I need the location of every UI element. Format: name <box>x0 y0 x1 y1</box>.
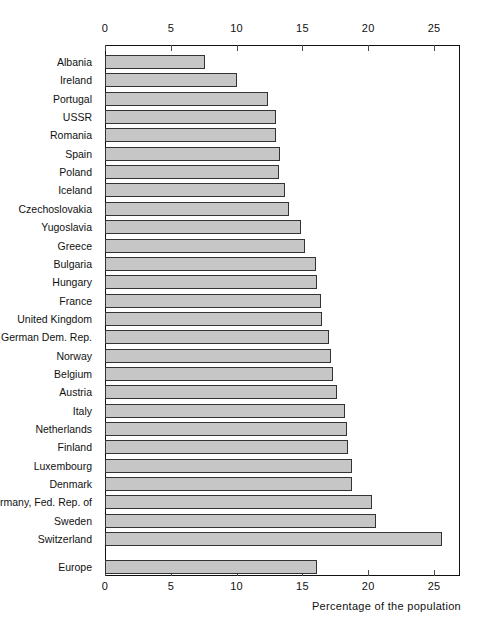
bar <box>105 55 205 69</box>
bar <box>105 404 345 418</box>
category-label: Italy <box>73 406 92 417</box>
x-tick-label-top: 20 <box>348 22 388 34</box>
bar <box>105 220 301 234</box>
category-label: Denmark <box>49 479 92 490</box>
bar <box>105 385 337 399</box>
category-label: German Dem. Rep. <box>1 332 92 343</box>
category-label: Finland <box>58 442 92 453</box>
bar <box>105 440 348 454</box>
category-label: Greece <box>58 241 92 252</box>
bar <box>105 92 268 106</box>
x-tick-top <box>105 45 106 51</box>
bar <box>105 514 376 528</box>
x-tick-top <box>237 45 238 51</box>
x-tick-label-top: 25 <box>414 22 454 34</box>
category-label: Norway <box>56 351 92 362</box>
bar <box>105 239 305 253</box>
x-tick-label-top: 15 <box>282 22 322 34</box>
bar <box>105 330 329 344</box>
category-label: Spain <box>65 149 92 160</box>
bar <box>105 183 285 197</box>
category-label: Romania <box>50 130 92 141</box>
x-tick-label-top: 5 <box>151 22 191 34</box>
x-tick-top <box>434 45 435 51</box>
bar <box>105 202 289 216</box>
category-label: Germany, Fed. Rep. of <box>0 497 92 508</box>
bar <box>105 477 352 491</box>
category-label: USSR <box>63 112 92 123</box>
x-tick-label-bottom: 25 <box>414 580 454 592</box>
bar <box>105 312 322 326</box>
category-labels: AlbaniaIrelandPortugalUSSRRomaniaSpainPo… <box>0 0 100 641</box>
category-label: France <box>59 296 92 307</box>
bar <box>105 349 331 363</box>
bar <box>105 147 280 161</box>
category-label: Albania <box>57 57 92 68</box>
bar <box>105 560 317 574</box>
x-tick-bottom <box>368 570 369 576</box>
category-label: Bulgaria <box>53 259 92 270</box>
category-label: Luxembourg <box>34 461 92 472</box>
x-tick-top <box>368 45 369 51</box>
category-label: Belgium <box>54 369 92 380</box>
category-label: Yugoslavia <box>41 222 92 233</box>
bar <box>105 275 317 289</box>
bar <box>105 110 276 124</box>
x-tick-top <box>171 45 172 51</box>
bar <box>105 257 316 271</box>
x-tick-label-bottom: 10 <box>217 580 257 592</box>
x-axis-title: Percentage of the population <box>312 600 461 612</box>
category-label: Czechoslovakia <box>18 204 92 215</box>
bar <box>105 128 276 142</box>
category-label: Europe <box>58 562 92 573</box>
x-tick-label-bottom: 5 <box>151 580 191 592</box>
x-tick-label-top: 10 <box>217 22 257 34</box>
bar <box>105 294 321 308</box>
bar <box>105 532 442 546</box>
category-label: Portugal <box>53 94 92 105</box>
category-label: Ireland <box>60 75 92 86</box>
x-tick-label-bottom: 20 <box>348 580 388 592</box>
category-label: Poland <box>59 167 92 178</box>
bar <box>105 165 279 179</box>
category-label: Hungary <box>52 277 92 288</box>
bar <box>105 422 347 436</box>
x-tick-label-bottom: 15 <box>282 580 322 592</box>
bar <box>105 367 333 381</box>
x-tick-bottom <box>434 570 435 576</box>
x-tick-top <box>302 45 303 51</box>
category-label: Sweden <box>54 516 92 527</box>
category-label: United Kingdom <box>17 314 92 325</box>
bar <box>105 73 237 87</box>
bar <box>105 495 372 509</box>
category-label: Iceland <box>58 185 92 196</box>
category-label: Switzerland <box>38 534 92 545</box>
bar <box>105 459 352 473</box>
category-label: Austria <box>59 387 92 398</box>
bar-chart: 0510152025 0510152025 AlbaniaIrelandPort… <box>0 0 485 641</box>
category-label: Netherlands <box>35 424 92 435</box>
